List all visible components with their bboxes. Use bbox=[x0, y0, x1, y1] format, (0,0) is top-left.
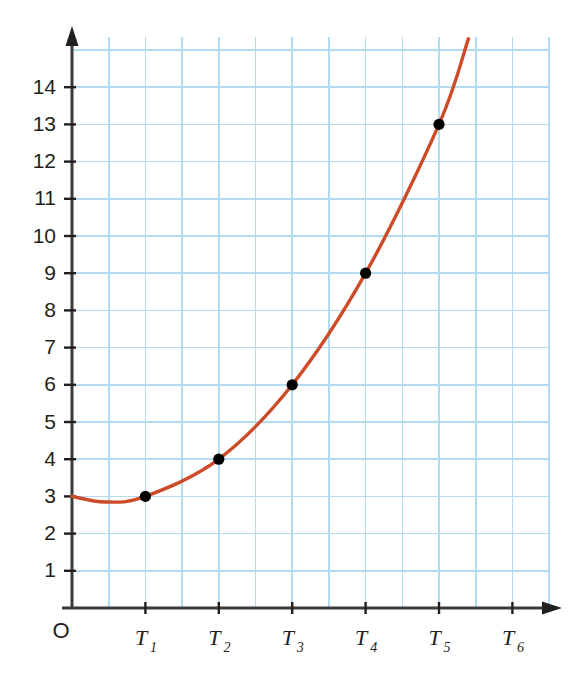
x-tick-letter: T bbox=[355, 625, 369, 650]
y-tick-label: 14 bbox=[33, 75, 57, 98]
x-tick-letter: T bbox=[135, 625, 149, 650]
data-point-T1 bbox=[140, 491, 151, 502]
x-tick-label-t5: T 5 bbox=[428, 625, 450, 655]
y-tick-label: 11 bbox=[34, 186, 56, 209]
grid-lines bbox=[72, 37, 549, 608]
x-tick-label-t3: T 3 bbox=[282, 625, 304, 655]
data-point-T4 bbox=[360, 268, 371, 279]
origin-label: O bbox=[52, 618, 69, 643]
x-tick-letter: T bbox=[282, 625, 296, 650]
y-tick-label: 4 bbox=[44, 447, 56, 470]
x-tick-subscript: 2 bbox=[223, 640, 230, 655]
x-tick-subscript: 6 bbox=[517, 640, 524, 655]
data-point-T5 bbox=[433, 119, 444, 130]
y-tick-label: 9 bbox=[44, 261, 56, 284]
x-tick-subscript: 4 bbox=[370, 640, 377, 655]
x-tick-subscript: 3 bbox=[296, 640, 304, 655]
x-tick-letter: T bbox=[428, 625, 442, 650]
y-tick-label: 13 bbox=[33, 112, 56, 135]
data-point-T3 bbox=[287, 379, 298, 390]
x-tick-label-t6: T 6 bbox=[502, 625, 524, 655]
y-tick-label: 12 bbox=[33, 149, 56, 172]
y-axis-arrow-icon bbox=[66, 26, 79, 46]
chart-container: 1 2 3 4 5 6 7 8 9 10 11 12 13 14 O bbox=[0, 0, 580, 679]
y-tick-label: 5 bbox=[44, 410, 56, 433]
x-axis-arrow-icon bbox=[542, 602, 562, 615]
y-axis-tick-labels: 1 2 3 4 5 6 7 8 9 10 11 12 13 14 bbox=[33, 75, 57, 582]
axes bbox=[62, 26, 562, 615]
x-tick-subscript: 5 bbox=[444, 640, 451, 655]
y-tick-label: 2 bbox=[44, 521, 56, 544]
y-tick-label: 8 bbox=[44, 298, 56, 321]
x-tick-label-t1: T 1 bbox=[135, 625, 157, 655]
x-tick-letter: T bbox=[208, 625, 222, 650]
x-tick-subscript: 1 bbox=[150, 640, 157, 655]
y-tick-label: 1 bbox=[44, 558, 56, 581]
y-tick-label: 3 bbox=[44, 484, 56, 507]
y-tick-label: 6 bbox=[44, 372, 56, 395]
data-point-T2 bbox=[213, 454, 224, 465]
x-tick-letter: T bbox=[502, 625, 516, 650]
x-tick-label-t4: T 4 bbox=[355, 625, 377, 655]
y-tick-label: 7 bbox=[44, 335, 56, 358]
x-axis-tick-labels: T 1 T 2 T 3 T 4 T 5 T 6 bbox=[135, 625, 524, 655]
y-tick-label: 10 bbox=[33, 224, 56, 247]
line-chart-figure: 1 2 3 4 5 6 7 8 9 10 11 12 13 14 O bbox=[0, 0, 580, 679]
data-curve bbox=[72, 39, 468, 502]
x-tick-label-t2: T 2 bbox=[208, 625, 230, 655]
